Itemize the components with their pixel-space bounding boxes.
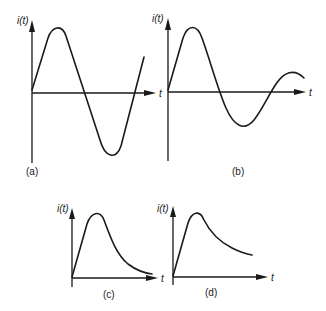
t-axis-label: t [309, 87, 313, 98]
panel-c: i(t) t (c) [57, 203, 165, 300]
waveform-curve [173, 213, 252, 276]
t-axis-label: t [271, 272, 275, 283]
t-axis-arrow-icon [146, 275, 158, 281]
y-axis-label: i(t) [17, 15, 29, 26]
waveform-curve [168, 28, 304, 127]
waveform-curve [32, 28, 144, 155]
panel-caption: (d) [205, 287, 217, 298]
y-axis-label: i(t) [157, 203, 169, 214]
panel-a: i(t) t (a) [17, 15, 163, 177]
panel-caption: (c) [103, 289, 115, 300]
current-waveforms-figure: i(t) t (a) i(t) t (b) i(t) t (c) i(t) t … [0, 0, 326, 311]
y-axis-label: i(t) [57, 203, 69, 214]
t-axis-arrow-icon [144, 90, 156, 96]
panel-caption: (a) [26, 166, 38, 177]
waveform-curve [72, 214, 152, 277]
panel-d: i(t) t (d) [157, 203, 275, 298]
t-axis-label: t [161, 273, 165, 284]
panel-b: i(t) t (b) [152, 13, 313, 177]
y-axis-arrow-icon [170, 206, 176, 217]
t-axis-arrow-icon [256, 274, 268, 280]
t-axis-arrow-icon [294, 89, 306, 95]
y-axis-arrow-icon [165, 18, 171, 30]
y-axis-label: i(t) [152, 13, 164, 24]
y-axis-arrow-icon [69, 208, 75, 219]
y-axis-arrow-icon [29, 20, 35, 32]
panel-caption: (b) [232, 166, 244, 177]
t-axis-label: t [159, 88, 163, 99]
